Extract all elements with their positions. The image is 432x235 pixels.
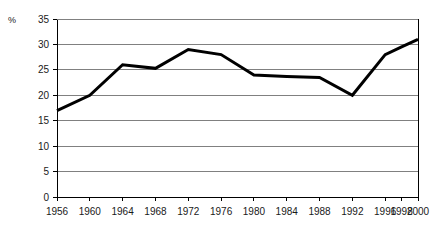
y-axis-tick-label: 35 — [38, 14, 50, 25]
x-axis-tick-label: 1976 — [210, 206, 233, 217]
x-axis-tick-label: 2000 — [407, 206, 430, 217]
data-line — [57, 39, 418, 110]
y-axis-tick-label: 20 — [38, 90, 50, 101]
x-axis-tick-label: 1988 — [308, 206, 331, 217]
x-axis-tick-label: 1984 — [276, 206, 299, 217]
x-axis-tick-label: 1956 — [46, 206, 69, 217]
x-axis-tick-label: 1992 — [341, 206, 364, 217]
x-axis-tick-label: 1972 — [177, 206, 200, 217]
y-axis-tick-label: 30 — [38, 39, 50, 50]
x-axis-ticks-group — [57, 197, 418, 201]
y-axis-tick-label: 10 — [38, 141, 50, 152]
x-axis-tick-label: 1980 — [243, 206, 266, 217]
axes-group — [57, 19, 418, 197]
y-axis-ticks-group — [53, 19, 57, 197]
y-axis-tick-label: 15 — [38, 115, 50, 126]
data-series-group — [57, 39, 418, 110]
line-chart: % 05101520253035 19561960196419681972197… — [0, 0, 432, 235]
gridlines-group — [57, 19, 418, 197]
x-axis-tick-label: 1960 — [79, 206, 102, 217]
x-axis-tick-labels-group: 1956196019641968197219761980198419881992… — [46, 206, 430, 217]
y-axis-tick-label: 0 — [43, 192, 49, 203]
x-axis-tick-label: 1968 — [144, 206, 167, 217]
chart-plot-area: 05101520253035 1956196019641968197219761… — [0, 0, 432, 235]
x-axis-tick-label: 1964 — [112, 206, 135, 217]
y-axis-tick-label: 25 — [38, 64, 50, 75]
y-axis-tick-label: 5 — [43, 166, 49, 177]
y-axis-tick-labels-group: 05101520253035 — [38, 14, 50, 203]
